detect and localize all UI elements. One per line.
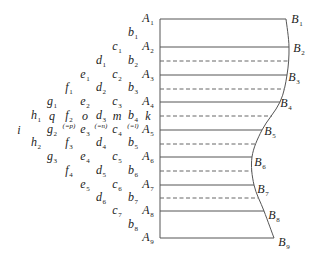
node-label-c3: c3 [112,95,121,110]
node-label-f1: f1 [65,81,72,96]
node-label-b8: b8 [128,218,138,233]
node-label-c1: c1 [112,40,121,55]
label-subscript: 6 [150,157,154,165]
contour-label-b4: B4 [280,97,291,112]
node-label-b1: b1 [128,26,138,41]
label-base: b [128,135,134,149]
node-label-o: o [82,110,88,122]
node-label-g1: g1 [47,95,57,110]
label-subscript: 7 [118,211,122,219]
label-subscript: 1 [150,19,154,27]
label-subscript: 2 [103,88,107,96]
node-label-e1: e1 [80,68,89,83]
label-subscript: 2 [38,143,42,151]
label-base: A [142,67,149,81]
node-label-e3: e3 [80,123,89,138]
label-subscript: 5 [103,171,107,179]
node-label-d4: d4 [96,136,106,151]
label-subscript: 2 [118,75,122,83]
node-label-a1: A1 [142,12,153,27]
label-base: b [128,190,134,204]
label-subscript: 2 [150,47,154,55]
label-base: B [257,182,264,196]
label-subscript: 3 [86,130,90,138]
node-label-h1: h1 [31,109,41,124]
label-base: g [47,94,53,108]
label-base: b [128,217,134,231]
label-subscript: 5 [272,132,276,140]
label-base: B [254,155,261,169]
label-base: b [128,108,134,122]
label-subscript: 1 [69,88,73,96]
label-base: c [112,122,117,136]
node-label-q: q [49,110,55,122]
label-base: e [80,149,85,163]
node-label-m: m [113,110,122,122]
node-label-b3: b3 [128,81,138,96]
label-subscript: 9 [150,238,154,246]
label-subscript: 1 [103,61,107,69]
node-label-a9: A9 [142,231,153,246]
node-label-b6: b6 [128,164,138,179]
label-base: d [96,163,102,177]
label-base: d [96,108,102,122]
label-base: A [142,39,149,53]
node-label-c4: c4 [112,123,121,138]
label-subscript: 4 [288,104,292,112]
label-base: h [31,108,37,122]
node-label-d2: d2 [96,81,106,96]
node-label-a4: A4 [142,95,153,110]
node-label-d5: d5 [96,164,106,179]
node-label-c5: c5 [112,150,121,165]
label-base: e [80,122,85,136]
node-label-f4: f4 [65,164,72,179]
label-base: B [280,96,287,110]
label-base: A [142,177,149,191]
label-subscript: 7 [150,185,154,193]
node-label-a6: A6 [142,150,153,165]
label-subscript: 4 [86,157,90,165]
label-base: B [278,235,285,249]
label-base: B [293,41,300,55]
node-label-b2: b2 [128,54,138,69]
label-subscript: 8 [150,211,154,219]
label-base: f [65,163,68,177]
label-subscript: 1 [86,75,90,83]
node-label-g3: g3 [47,150,57,165]
label-subscript: 1 [135,33,139,41]
node-label-d6: d6 [96,191,106,206]
node-label-b7: b7 [128,191,138,206]
label-base: c [112,39,117,53]
node-label-g2: g2 [47,123,57,138]
label-subscript: 3 [69,143,73,151]
label-base: A [142,230,149,244]
label-base: d [96,80,102,94]
label-base: A [142,11,149,25]
label-base: b [128,163,134,177]
node-label-k: k [145,110,150,122]
label-subscript: 5 [86,185,90,193]
label-base: e [80,94,85,108]
node-label-c7: c7 [112,204,121,219]
label-subscript: 5 [118,157,122,165]
node-label-b5: b5 [128,136,138,151]
label-subscript: 7 [135,198,139,206]
label-subscript: 4 [118,130,122,138]
contour-label-b8: B8 [268,209,279,224]
label-base: f [65,108,68,122]
label-base: c [112,203,117,217]
label-subscript: 2 [54,130,58,138]
label-subscript: 9 [286,243,290,251]
node-label-i: i [17,124,20,136]
label-base: b [128,25,134,39]
label-base: A [142,203,149,217]
label-subscript: 7 [265,190,269,198]
label-base: A [142,94,149,108]
node-label-c2: c2 [112,68,121,83]
label-subscript: 2 [135,61,139,69]
label-subscript: 5 [150,130,154,138]
label-base: B [264,124,271,138]
contour-label-b3: B3 [288,71,299,86]
contour-label-b6: B6 [254,156,265,171]
node-label-a7: A7 [142,178,153,193]
